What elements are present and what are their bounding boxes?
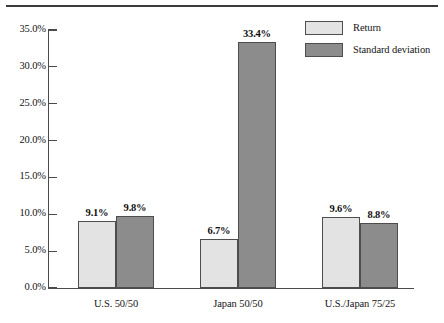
- x-axis-category-label: Japan 50/50: [178, 298, 298, 309]
- legend-swatch-return-icon: [305, 21, 343, 35]
- y-axis-tick-label: 10.0%: [0, 208, 46, 219]
- y-axis-tick: [49, 251, 57, 252]
- bar-standard-deviation: [116, 216, 154, 288]
- header-divider-rule: [6, 5, 438, 7]
- y-axis-tick-label-text: 30.0%: [2, 61, 46, 72]
- y-axis-tick-label: 35.0%: [0, 24, 46, 35]
- y-axis-tick-label: 0.0%: [0, 282, 46, 293]
- x-axis-baseline: [48, 288, 414, 289]
- y-axis-tick-label-text: 10.0%: [2, 208, 46, 219]
- y-axis-tick: [49, 177, 57, 178]
- bar-standard-deviation: [238, 42, 276, 288]
- y-axis-tick-label-text: 0.0%: [2, 282, 46, 293]
- bar-return: [78, 221, 116, 288]
- bar-value-label: 33.4%: [228, 28, 286, 39]
- y-axis-tick: [49, 140, 57, 141]
- legend-label-standard-deviation: Standard deviation: [353, 44, 430, 56]
- y-axis-tick-label-text: 5.0%: [2, 245, 46, 256]
- bar-chart-figure: 0.0%5.0%10.0%15.0%20.0%25.0%30.0%35.0% 9…: [0, 0, 444, 323]
- y-axis-tick: [49, 29, 57, 30]
- bar-return: [200, 239, 238, 288]
- bar-value-label: 9.8%: [106, 202, 164, 213]
- y-axis-tick-label: 20.0%: [0, 135, 46, 146]
- bar-value-label: 8.8%: [350, 209, 408, 220]
- legend-swatch-standard-deviation-icon: [305, 43, 343, 57]
- y-axis-tick-label-text: 35.0%: [2, 24, 46, 35]
- y-axis-tick-label: 25.0%: [0, 98, 46, 109]
- y-axis-tick-label: 30.0%: [0, 61, 46, 72]
- bar-return: [322, 217, 360, 288]
- x-axis-category-label: U.S./Japan 75/25: [300, 298, 420, 309]
- x-axis-category-label: U.S. 50/50: [56, 298, 176, 309]
- bar-standard-deviation: [360, 223, 398, 288]
- y-axis-tick: [49, 103, 57, 104]
- y-axis-tick-label-text: 15.0%: [2, 171, 46, 182]
- y-axis-tick-label-text: 20.0%: [2, 135, 46, 146]
- legend-label-return: Return: [353, 22, 381, 34]
- y-axis-tick-label: 15.0%: [0, 171, 46, 182]
- y-axis-tick-label: 5.0%: [0, 245, 46, 256]
- y-axis-tick-label-text: 25.0%: [2, 98, 46, 109]
- y-axis-tick: [49, 287, 57, 288]
- y-axis-tick: [49, 66, 57, 67]
- y-axis-tick: [49, 214, 57, 215]
